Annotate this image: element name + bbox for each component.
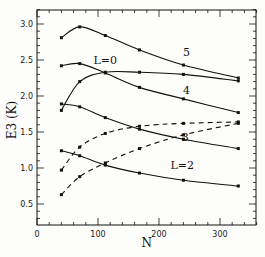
x-tick-label: 0	[34, 230, 39, 239]
x-axis-title: N	[142, 236, 153, 250]
data-point-marker	[138, 125, 141, 128]
x-tick-label: 200	[151, 230, 166, 239]
series-annotation: L=2	[170, 159, 194, 172]
data-point-marker	[60, 36, 63, 39]
data-point-marker	[182, 73, 185, 76]
data-point-marker	[182, 97, 185, 100]
data-point-marker	[138, 172, 141, 175]
data-point-marker	[78, 105, 81, 108]
plot-frame	[37, 10, 256, 225]
x-tick-label: 100	[90, 230, 105, 239]
data-point-marker	[60, 149, 63, 152]
data-point-marker	[104, 34, 107, 37]
data-point-marker	[237, 111, 240, 114]
y-tick-label: 1.0	[20, 164, 33, 173]
data-point-marker	[182, 64, 185, 67]
y-tick-label: 2.0	[20, 92, 33, 101]
data-point-marker	[237, 79, 240, 82]
data-point-marker	[182, 179, 185, 182]
data-point-marker	[104, 132, 107, 135]
data-point-marker	[78, 62, 81, 65]
data-point-marker	[237, 185, 240, 188]
series-line-l-5	[61, 27, 238, 78]
data-point-marker	[78, 175, 81, 178]
data-point-marker	[138, 147, 141, 150]
data-point-marker	[138, 48, 141, 51]
line-chart: 01002003000.51.01.52.02.53.0NE3 (K)5L=04…	[0, 0, 265, 257]
y-axis-title: E3 (K)	[5, 101, 19, 140]
series-line-l-2	[61, 151, 238, 186]
data-point-marker	[138, 86, 141, 89]
data-point-marker	[138, 71, 141, 74]
data-point-marker	[104, 71, 107, 74]
data-point-marker	[78, 25, 81, 28]
series-annotation: 3	[182, 131, 189, 144]
series-annotation: 4	[183, 84, 190, 97]
y-tick-label: 0.5	[20, 200, 33, 209]
data-point-marker	[237, 77, 240, 80]
y-tick-label: 1.5	[20, 128, 33, 137]
data-point-marker	[60, 102, 63, 105]
data-point-marker	[138, 128, 141, 131]
x-tick-label: 300	[212, 230, 227, 239]
y-tick-label: 2.5	[20, 56, 33, 65]
data-point-marker	[237, 147, 240, 150]
data-point-marker	[182, 122, 185, 125]
series-annotation: L=0	[94, 54, 118, 67]
data-point-marker	[78, 80, 81, 83]
chart-container: 01002003000.51.01.52.02.53.0NE3 (K)5L=04…	[0, 0, 265, 257]
data-point-marker	[104, 164, 107, 167]
data-point-marker	[60, 64, 63, 67]
data-point-marker	[60, 193, 63, 196]
data-point-marker	[60, 169, 63, 172]
data-point-marker	[78, 154, 81, 157]
series-annotation: 5	[183, 46, 190, 59]
data-point-marker	[60, 109, 63, 112]
data-point-marker	[237, 122, 240, 125]
data-point-marker	[104, 116, 107, 119]
y-tick-label: 3.0	[20, 20, 33, 29]
series-line-l-4	[61, 63, 238, 112]
data-point-marker	[78, 146, 81, 149]
